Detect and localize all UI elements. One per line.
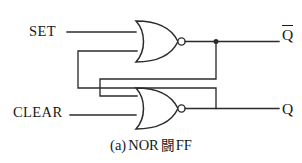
caption-gate-type: NOR — [128, 137, 159, 153]
nor-gate-bottom-inversion-bubble — [178, 105, 185, 112]
nor-gate-bottom-body — [136, 88, 178, 129]
caption-suffix: FF — [176, 137, 192, 153]
input-label-clear: CLEAR — [13, 105, 63, 120]
figure-nor-flip-flop: SET CLEAR Q Q (a)NOR闘FF — [0, 0, 302, 163]
output-label-q-bar-text: Q — [282, 25, 293, 43]
caption-cjk-character: 闘 — [161, 137, 174, 153]
figure-caption: (a)NOR闘FF — [0, 134, 302, 154]
nor-gate-top-body — [136, 21, 178, 62]
output-label-q: Q — [282, 101, 293, 117]
input-label-set: SET — [29, 24, 56, 39]
output-label-q-bar: Q — [282, 25, 293, 43]
nor-gate-top-inversion-bubble — [178, 38, 185, 45]
caption-prefix: (a) — [110, 137, 126, 153]
